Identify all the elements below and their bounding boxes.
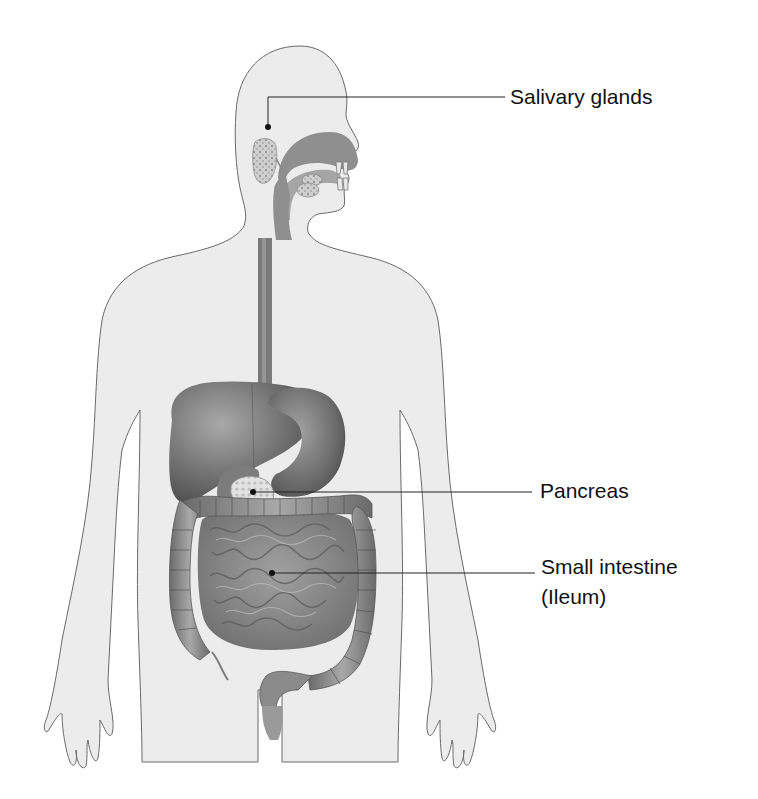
label-pancreas: Pancreas <box>540 478 629 503</box>
dot-salivary-glands <box>265 124 271 130</box>
label-small-intestine: Small intestine <box>541 554 678 579</box>
dot-small-intestine <box>269 570 275 576</box>
label-salivary-glands: Salivary glands <box>510 84 652 109</box>
digestive-system-diagram: Salivary glands Pancreas Small intestine… <box>0 0 758 799</box>
dot-pancreas <box>250 489 256 495</box>
label-ileum: (Ileum) <box>541 584 606 609</box>
submandibular-gland <box>297 183 319 197</box>
anatomy-illustration <box>0 0 758 799</box>
